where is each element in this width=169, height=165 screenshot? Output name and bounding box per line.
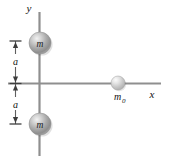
dimension-arrow-upper-top — [13, 42, 18, 48]
dimension-label-upper: a — [13, 56, 18, 67]
mass-test-subscript: 0 — [122, 97, 126, 105]
dimension-arrow-lower-bottom — [13, 117, 18, 123]
diagram-canvas: y x a a m — [0, 0, 169, 165]
mass-bottom-label: m — [37, 120, 44, 130]
axes-group: y x — [8, 2, 161, 156]
dimension-arrow-lower-top — [13, 85, 18, 91]
physics-diagram: y x a a m — [0, 0, 169, 165]
mass-bottom: m — [29, 113, 53, 137]
y-axis-label: y — [26, 2, 32, 14]
mass-test-label: m — [114, 91, 121, 102]
mass-test-sphere — [111, 76, 125, 90]
x-axis-label: x — [149, 88, 155, 100]
mass-top-label: m — [37, 39, 44, 49]
mass-top: m — [29, 32, 53, 56]
mass-test: m 0 — [111, 76, 126, 105]
dimension-arrow-upper-bottom — [13, 77, 18, 83]
dimension-label-lower: a — [13, 99, 18, 110]
